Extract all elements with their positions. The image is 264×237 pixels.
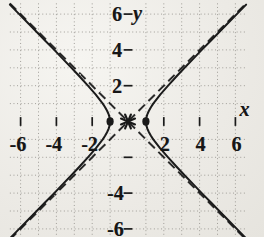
hyperbola-graph-figure: -6 -4 -2 2 4 6 6 4 2 -4 -6 y x <box>0 0 264 237</box>
x-tick-label-neg-4: -4 <box>45 134 62 154</box>
y-tick-label-neg-6: -6 <box>107 219 124 237</box>
y-tick-label-pos-6: 6 <box>112 4 122 24</box>
x-tick-label-pos-2: 2 <box>160 134 170 154</box>
x-tick-label-neg-6: -6 <box>10 134 27 154</box>
y-tick-label-pos-2: 2 <box>112 76 122 96</box>
x-tick-label-neg-2: -2 <box>81 134 98 154</box>
x-tick-label-pos-4: 4 <box>196 134 206 154</box>
x-axis-name-label: x <box>239 99 249 119</box>
y-tick-label-pos-4: 4 <box>112 40 122 60</box>
x-tick-label-pos-6: 6 <box>231 134 241 154</box>
plot-canvas <box>0 0 264 237</box>
y-tick-label-neg-4: -4 <box>107 183 124 203</box>
y-axis-name-label: y <box>133 3 142 23</box>
